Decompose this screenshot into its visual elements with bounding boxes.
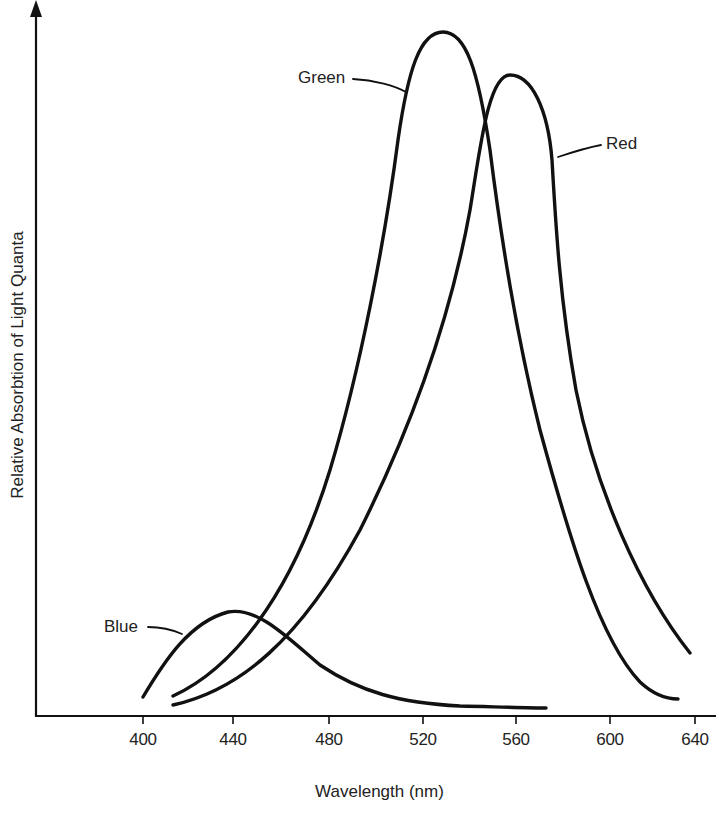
x-tick-520: 520 bbox=[409, 730, 436, 750]
green-curve bbox=[173, 32, 678, 699]
x-tick-640: 640 bbox=[681, 730, 708, 750]
x-tick-600: 600 bbox=[596, 730, 623, 750]
y-axis-title: Relative Absorbtion of Light Quanta bbox=[8, 231, 28, 498]
red-curve bbox=[173, 75, 690, 705]
x-tick-440: 440 bbox=[219, 730, 246, 750]
blue-leader-line bbox=[148, 627, 182, 634]
red-leader-line bbox=[558, 145, 601, 157]
red-series-label: Red bbox=[606, 134, 637, 154]
axes bbox=[35, 10, 716, 717]
x-tick-400: 400 bbox=[129, 730, 156, 750]
green-leader-line bbox=[353, 79, 406, 92]
x-tick-560: 560 bbox=[502, 730, 529, 750]
blue-curve bbox=[143, 611, 546, 708]
x-ticks bbox=[143, 716, 695, 724]
x-tick-480: 480 bbox=[315, 730, 342, 750]
absorption-chart bbox=[0, 0, 719, 814]
x-axis-title: Wavelength (nm) bbox=[0, 782, 719, 802]
green-series-label: Green bbox=[298, 68, 345, 88]
y-axis-arrow-icon bbox=[30, 0, 42, 17]
blue-series-label: Blue bbox=[104, 617, 138, 637]
